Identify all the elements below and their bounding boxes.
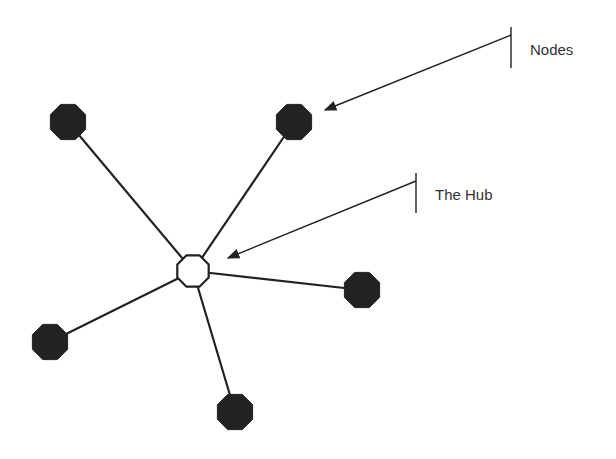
hub-node xyxy=(177,255,208,286)
callouts-group xyxy=(228,27,511,258)
star-topology-diagram xyxy=(0,0,616,459)
hub-group xyxy=(177,255,208,286)
edge-hub-to-node-top-right xyxy=(193,122,294,271)
edge-hub-to-node-left xyxy=(50,271,193,342)
node-top-left xyxy=(50,104,85,139)
node-left xyxy=(32,324,67,359)
hub-callout-arrow xyxy=(228,181,416,258)
nodes-label: Nodes xyxy=(530,41,573,58)
nodes-callout-arrow xyxy=(325,35,511,110)
node-right xyxy=(344,272,379,307)
hub-label: The Hub xyxy=(435,186,493,203)
edge-hub-to-node-right xyxy=(193,271,362,290)
edge-hub-to-node-bottom xyxy=(193,271,235,412)
node-bottom xyxy=(217,394,252,429)
edge-hub-to-node-top-left xyxy=(68,122,193,271)
node-top-right xyxy=(276,104,311,139)
